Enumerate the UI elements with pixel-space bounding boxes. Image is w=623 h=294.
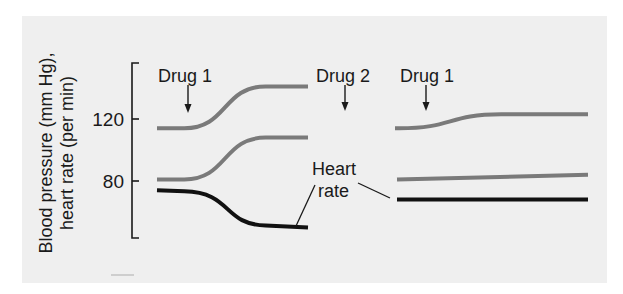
drug2-label: Drug 2 bbox=[316, 66, 370, 86]
heart-rate-label-line1: Heart bbox=[312, 159, 356, 179]
drug1-label-right: Drug 1 bbox=[400, 66, 454, 86]
y-axis-label: Blood pressure (mm Hg), heart rate (per … bbox=[36, 52, 77, 253]
drug1-label-left: Drug 1 bbox=[158, 66, 212, 86]
heart-rate-label-line2: rate bbox=[318, 181, 349, 201]
series-line-systolic-blood-pressure bbox=[157, 86, 308, 128]
y-axis-label-line1: Blood pressure (mm Hg), bbox=[36, 52, 56, 253]
series-line-systolic-blood-pressure bbox=[395, 114, 588, 128]
tick-label-80: 80 bbox=[103, 171, 124, 192]
arrow-down-icon bbox=[423, 85, 430, 111]
y-axis-label-line2: heart rate (per min) bbox=[57, 76, 77, 230]
series-line-heart-rate bbox=[157, 190, 308, 227]
series-line-diastolic-blood-pressure bbox=[157, 138, 308, 180]
series-line-diastolic-blood-pressure bbox=[397, 175, 588, 180]
y-axis bbox=[132, 63, 139, 238]
arrow-down-icon bbox=[342, 85, 349, 111]
tick-label-120: 120 bbox=[92, 109, 124, 130]
arrow-down-icon bbox=[185, 85, 192, 113]
axis-bracket bbox=[132, 63, 139, 238]
leader-line-left bbox=[296, 185, 315, 226]
data-series bbox=[157, 86, 588, 227]
chart: Blood pressure (mm Hg), heart rate (per … bbox=[0, 0, 623, 294]
leader-line-right bbox=[358, 183, 390, 198]
